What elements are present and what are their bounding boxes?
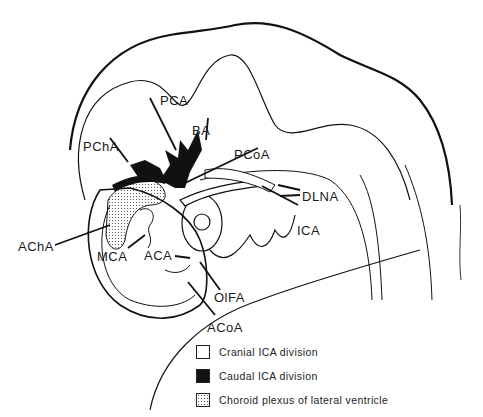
label-pcoa: PCoA — [234, 148, 270, 161]
black-swatch-icon — [196, 369, 210, 383]
label-ica: ICA — [297, 224, 320, 237]
outer-head-contour — [70, 23, 452, 205]
label-pca: PCA — [160, 94, 188, 107]
legend-item-caudal: Caudal ICA division — [196, 365, 388, 387]
figure-canvas: PCA BA PChA PCoA DLNA ICA AChA MCA ACA O… — [0, 0, 483, 417]
legend-label: Choroid plexus of lateral ventricle — [219, 394, 388, 406]
label-aca: ACA — [144, 249, 172, 262]
mca-vessels — [140, 209, 153, 248]
label-acoa: ACoA — [207, 321, 243, 334]
aca-vessels — [165, 265, 190, 272]
right-contour-line — [405, 165, 432, 300]
legend-item-choroid: Choroid plexus of lateral ventricle — [196, 389, 388, 411]
label-ba: BA — [192, 124, 210, 137]
legend-item-cranial: Cranial ICA division — [196, 341, 388, 363]
label-dlna: DLNA — [302, 190, 339, 203]
label-mca: MCA — [97, 250, 127, 263]
legend-label: Caudal ICA division — [219, 370, 318, 382]
white-swatch-icon — [196, 345, 210, 359]
label-olfa: OlFA — [214, 291, 245, 304]
label-acha: AChA — [18, 240, 54, 253]
label-pcha: PChA — [83, 140, 119, 153]
telencephalon-folds — [210, 215, 295, 258]
lens — [194, 214, 210, 230]
legend: Cranial ICA division Caudal ICA division… — [196, 341, 388, 413]
legend-label: Cranial ICA division — [219, 346, 318, 358]
artist-signature — [460, 205, 461, 280]
dotted-swatch-icon — [196, 393, 210, 407]
